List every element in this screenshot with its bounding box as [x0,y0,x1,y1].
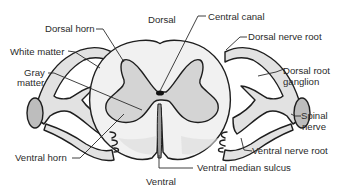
label-dorsal-horn: Dorsal horn [45,23,95,34]
spinal-cord-diagram: Dorsal Ventral Dorsal horn White matter … [0,0,337,192]
label-ventral: Ventral [146,176,176,187]
label-dorsal: Dorsal [148,14,176,25]
label-spinal-nerve-line1: Spinal [301,110,328,121]
right-dorsal-nerve-root [225,48,305,134]
label-ventral-median-sulcus: Ventral median sulcus [197,162,291,173]
label-central-canal: Central canal [208,11,265,22]
label-ventral-horn: Ventral horn [15,152,67,163]
label-dorsal-root-ganglion-line1: Dorsal root [283,65,330,76]
label-gray-matter-line2: matter [17,77,45,88]
left-spinal-nerve-cut [27,98,43,128]
central-canal [156,90,164,95]
ventral-median-sulcus [157,104,162,158]
label-dorsal-nerve-root: Dorsal nerve root [248,31,322,42]
label-ventral-nerve-root: Ventral nerve root [252,145,328,156]
label-white-matter: White matter [10,46,65,57]
label-spinal-nerve-line2: nerve [302,121,326,132]
label-dorsal-root-ganglion-line2: ganglion [283,76,319,87]
